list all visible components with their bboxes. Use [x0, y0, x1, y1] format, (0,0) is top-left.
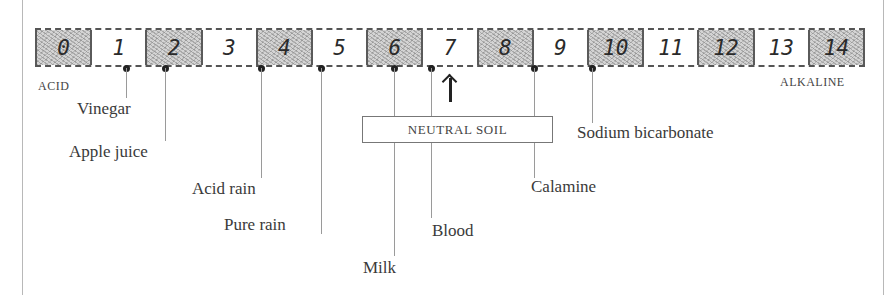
calamine-label: Calamine	[531, 177, 596, 197]
ph-cell-label: 14	[824, 36, 849, 60]
ph-cell-14: 14	[808, 30, 865, 65]
leader-line	[394, 68, 395, 256]
ph-cell-8: 8	[477, 30, 532, 65]
ph-cell-5: 5	[311, 30, 366, 65]
acid-rain-label: Acid rain	[192, 179, 256, 199]
leader-line	[261, 68, 262, 178]
ph-cell-label: 9	[554, 36, 567, 60]
ph-cell-label: 13	[769, 36, 794, 60]
blood-label: Blood	[432, 221, 474, 241]
ph-cell-4: 4	[256, 30, 311, 65]
ph-scale-bar: 0 1 2 3 4 5 6 7 8 9 10 11 12 13 14	[35, 28, 865, 67]
ph-cell-label: 6	[388, 36, 401, 60]
ph-cell-2: 2	[145, 30, 200, 65]
ph-cell-label: 5	[333, 36, 346, 60]
ph-cell-label: 3	[223, 36, 236, 60]
up-arrow-icon	[449, 78, 452, 102]
ph-cell-13: 13	[753, 30, 808, 65]
sodium-bicarbonate-label: Sodium bicarbonate	[577, 123, 713, 143]
ph-cell-label: 4	[278, 36, 291, 60]
alkaline-label: ALKALINE	[780, 75, 845, 90]
leader-line	[592, 68, 593, 123]
ph-cell-7: 7	[421, 30, 476, 65]
ph-cell-label: 0	[57, 36, 70, 60]
leader-line	[126, 68, 127, 98]
acid-label: ACID	[38, 79, 69, 94]
pure-rain-label: Pure rain	[224, 215, 286, 235]
milk-label: Milk	[363, 258, 396, 278]
ph-cell-label: 2	[168, 36, 181, 60]
ph-cell-1: 1	[90, 30, 145, 65]
ph-cell-3: 3	[201, 30, 256, 65]
ph-cell-label: 11	[658, 36, 683, 60]
leader-line	[165, 68, 166, 141]
ph-cell-label: 12	[713, 36, 738, 60]
ph-cell-label: 8	[499, 36, 512, 60]
leader-line	[321, 68, 322, 234]
ph-cell-6: 6	[366, 30, 421, 65]
apple-juice-label: Apple juice	[69, 142, 148, 162]
left-border-line	[22, 0, 23, 295]
ph-cell-9: 9	[532, 30, 587, 65]
ph-cell-label: 7	[444, 36, 457, 60]
neutral-soil-callout: NEUTRAL SOIL	[362, 116, 553, 143]
leader-line	[431, 68, 432, 218]
ph-cell-12: 12	[697, 30, 752, 65]
vinegar-label: Vinegar	[77, 99, 131, 119]
ph-cell-11: 11	[642, 30, 697, 65]
ph-cell-label: 10	[603, 36, 628, 60]
ph-cell-0: 0	[35, 30, 90, 65]
ph-cell-label: 1	[112, 36, 125, 60]
right-border-line	[883, 0, 884, 295]
neutral-soil-label: NEUTRAL SOIL	[408, 122, 508, 138]
ph-cell-10: 10	[587, 30, 642, 65]
